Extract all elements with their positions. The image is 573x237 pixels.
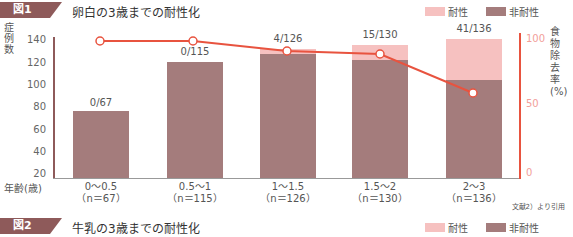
figure-2-title: 牛乳の3歳までの耐性化: [72, 219, 200, 236]
x-category-range: 1.5〜2: [340, 181, 420, 193]
line-point: [376, 50, 384, 58]
x-category: 1〜1.5 （n＝126）: [248, 181, 328, 205]
line-point: [469, 89, 477, 97]
x-category-range: 1〜1.5: [248, 181, 328, 193]
x-category: 2〜3 （n＝136）: [434, 181, 514, 205]
legend-label-nontolerant: 非耐性: [509, 220, 539, 235]
x-category: 1.5〜2 （n＝130）: [340, 181, 420, 205]
x-category-n: （n＝115）: [155, 193, 235, 205]
figure-2-legend: 耐性 非耐性: [425, 220, 539, 235]
legend-swatch-tolerant: [425, 223, 445, 232]
figure-2-tag: 図2: [0, 218, 50, 234]
source-citation: 文献2）より引用: [512, 201, 565, 211]
x-category: 0〜0.5 （n＝67）: [61, 181, 141, 205]
x-category-n: （n＝130）: [340, 193, 420, 205]
legend-swatch-nontolerant: [486, 223, 506, 232]
x-category-n: （n＝126）: [248, 193, 328, 205]
legend-label-tolerant: 耐性: [448, 220, 468, 235]
x-category-n: （n＝136）: [434, 193, 514, 205]
x-category-range: 0〜0.5: [61, 181, 141, 193]
line-point: [189, 37, 197, 45]
x-category: 0.5〜1 （n＝115）: [155, 181, 235, 205]
x-category-range: 2〜3: [434, 181, 514, 193]
x-category-range: 0.5〜1: [155, 181, 235, 193]
line-point: [283, 47, 291, 55]
line-point: [96, 37, 104, 45]
x-category-n: （n＝67）: [61, 193, 141, 205]
